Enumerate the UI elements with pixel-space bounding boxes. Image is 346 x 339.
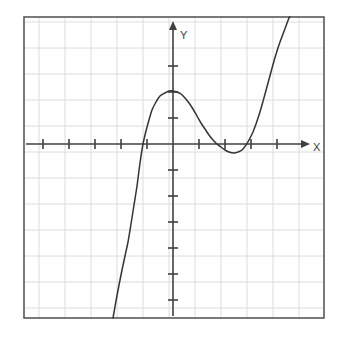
graph-canvas: X Y [0, 0, 346, 339]
graph-figure: X Y [0, 0, 346, 339]
x-axis-label: X [313, 141, 321, 153]
y-axis-label: Y [180, 29, 188, 41]
